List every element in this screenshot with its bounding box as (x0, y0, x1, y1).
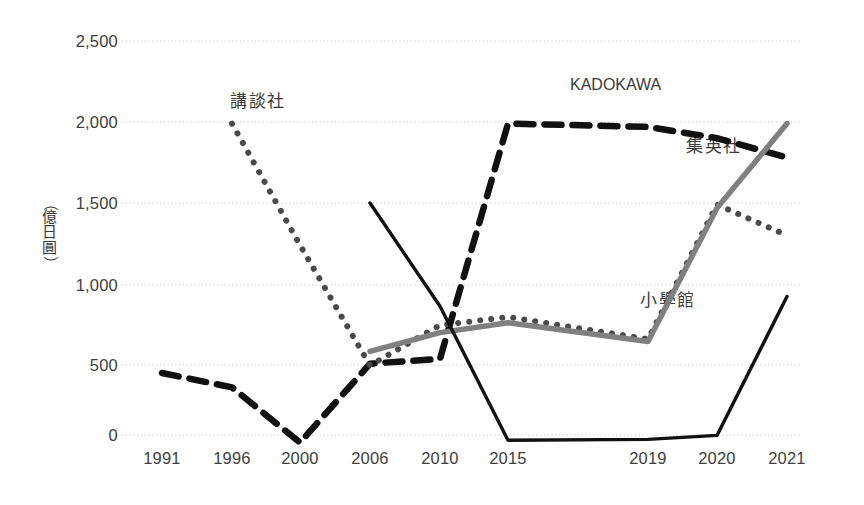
chart-container: （ 億 日 圓 ） 2,500 2,000 1,500 1,000 500 0 … (0, 0, 864, 505)
series-lines (162, 124, 787, 443)
series-line-0 (162, 124, 787, 443)
series-line-1 (232, 124, 787, 366)
plot-area (0, 0, 864, 505)
gridlines (122, 41, 800, 435)
series-line-3 (370, 203, 787, 440)
series-line-2 (370, 124, 787, 352)
